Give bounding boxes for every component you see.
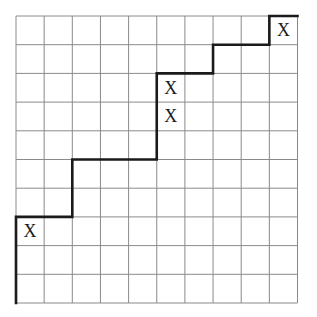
- x-mark: X: [24, 221, 37, 241]
- x-mark: X: [164, 78, 177, 98]
- x-mark: X: [164, 106, 177, 126]
- grid-diagram: XXXX: [0, 0, 317, 317]
- x-mark: X: [277, 20, 290, 40]
